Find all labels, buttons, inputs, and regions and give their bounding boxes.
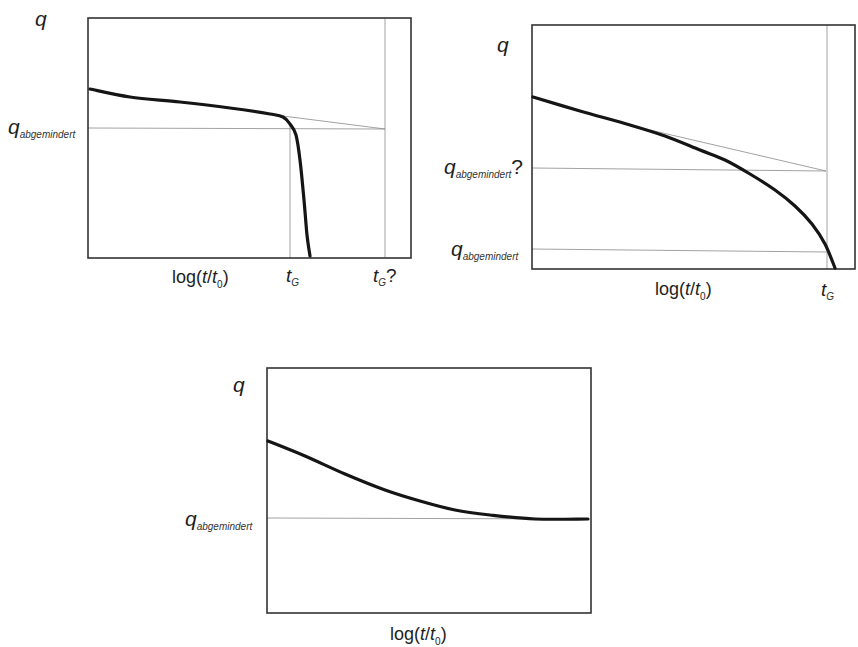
panel1-y-axis-label: q (35, 8, 47, 29)
q-symbol: q (451, 237, 463, 260)
x-axis-log: log( (172, 267, 202, 287)
panel2-y-axis-label: q (497, 34, 509, 55)
panel1-x-axis-label: log(t/t0) (172, 268, 229, 286)
tg-subscript: G (291, 277, 299, 288)
x-axis-log: log( (390, 624, 420, 644)
load-curve (533, 97, 835, 268)
q-subscript: abgemindert (20, 129, 76, 140)
x-axis-t0-subscript: 0 (435, 636, 441, 647)
panel3-q-abgemindert-label: qabgemindert (185, 508, 252, 529)
panel1-y-axis-text: q (35, 7, 47, 30)
tangent-extrapolation-line (283, 116, 385, 129)
x-axis-close: ) (706, 279, 712, 299)
chart-bottom (267, 368, 591, 613)
panel2-q-abgemindert-question-label: qabgemindert? (444, 156, 523, 177)
tangent-extrapolation-line (650, 130, 826, 171)
panel2-tg-label: tG (821, 280, 834, 299)
q-subscript: abgemindert (197, 521, 253, 532)
x-axis-t0-subscript: 0 (217, 279, 223, 290)
q-subscript: abgemindert (456, 169, 512, 180)
tg-subscript: G (826, 291, 834, 302)
panel3-y-axis-label: q (233, 374, 245, 395)
q-subscript: abgemindert (463, 251, 519, 262)
tg-subscript: G (378, 277, 386, 288)
x-axis-close: ) (441, 624, 447, 644)
panel3-y-axis-text: q (233, 373, 245, 396)
panel1-tg-question-label: tG? (373, 266, 397, 285)
panel2-x-axis-label: log(t/t0) (655, 280, 712, 298)
x-axis-t0-subscript: 0 (700, 291, 706, 302)
tg-question-mark: ? (386, 265, 397, 286)
q-symbol: q (185, 507, 197, 530)
panel1-tg-label: tG (286, 266, 299, 285)
panel2-q-abgemindert-label: qabgemindert (451, 238, 518, 259)
q-symbol: q (8, 115, 20, 138)
q-abgemindert-level-line (532, 249, 826, 252)
chart-frame (267, 368, 591, 613)
q-abgemindert-level-line (532, 168, 826, 171)
q-abgemindert-level-line (88, 128, 385, 129)
x-axis-close: ) (223, 267, 229, 287)
q-question-mark: ? (511, 155, 523, 178)
q-symbol: q (444, 155, 456, 178)
panel1-q-abgemindert-label: qabgemindert (8, 116, 75, 137)
load-curve (268, 441, 588, 519)
chart-frame (88, 18, 411, 258)
panel3-x-axis-label: log(t/t0) (390, 625, 447, 643)
chart-top-left (88, 18, 411, 258)
x-axis-log: log( (655, 279, 685, 299)
chart-top-right (532, 25, 855, 269)
load-curve (90, 89, 310, 256)
panel2-y-axis-text: q (497, 33, 509, 56)
